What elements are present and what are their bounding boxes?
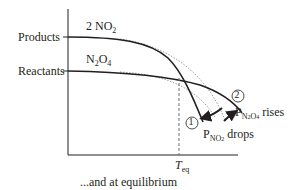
marker-1-label: 1 <box>189 117 194 127</box>
products-curve <box>68 37 203 122</box>
reactants-label: Reactants <box>18 65 65 77</box>
arrow-to-1 <box>203 108 222 118</box>
teq-label: Teq <box>175 159 189 174</box>
no2-curve-label: 2 NO2 <box>86 20 116 35</box>
pn2o4-rises-label: PN2O4 rises <box>235 106 284 121</box>
marker-2-label: 2 <box>235 90 240 100</box>
reactants-curve <box>68 71 242 113</box>
caption: ...and at equilibrium <box>80 176 177 188</box>
products-label: Products <box>18 31 60 43</box>
pno2-drops-label: PNO2 drops <box>203 128 254 143</box>
diagram-canvas <box>0 0 291 190</box>
n2o4-curve-label: N2O4 <box>86 53 111 68</box>
arrow-to-2 <box>224 112 235 121</box>
